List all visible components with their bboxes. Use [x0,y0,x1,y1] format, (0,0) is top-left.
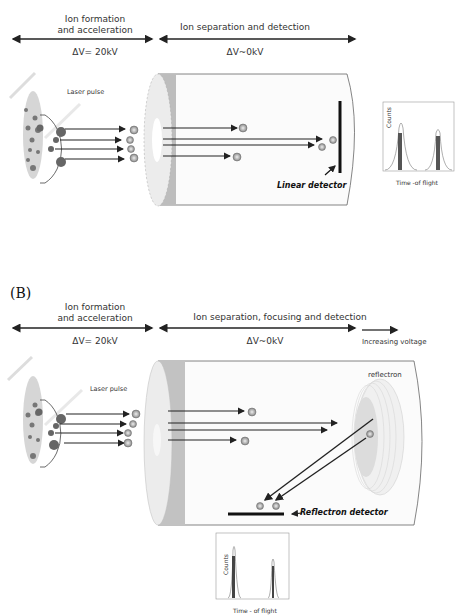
ions-accelerated-b [124,410,140,447]
panel-b-drawing [0,0,460,616]
acceleration-arrows-b [55,414,129,443]
sample-plate-b [23,376,43,464]
spectrum-b-xlabel: Time - of flight [233,607,277,614]
spectrum-b-ylabel: Counts [222,554,229,575]
reflectron-detector-label: Reflectron detector [300,508,388,517]
ion-at-reflectron [367,431,374,438]
laser-pulse-label-b: Laser pulse [90,385,127,393]
reflectron-label: reflectron [368,371,402,379]
